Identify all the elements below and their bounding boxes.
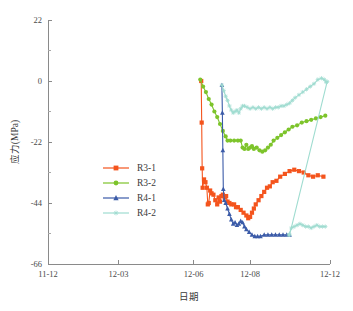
data-point-star bbox=[225, 98, 229, 102]
data-point-square bbox=[256, 198, 260, 202]
legend-entry-R4-1[interactable]: R4-1 bbox=[103, 193, 156, 203]
data-point-star bbox=[308, 84, 312, 88]
data-point-square bbox=[224, 194, 228, 198]
data-point-circle bbox=[279, 133, 283, 137]
data-point-square bbox=[200, 166, 204, 170]
data-point-square bbox=[211, 193, 215, 197]
x-tick-label: 12-08 bbox=[240, 269, 260, 279]
data-point-star bbox=[227, 104, 231, 108]
data-point-circle bbox=[207, 97, 211, 101]
y-tick-label: -66 bbox=[31, 259, 42, 269]
data-point-square bbox=[287, 169, 291, 173]
data-point-star bbox=[114, 211, 119, 216]
legend-entry-R3-2[interactable]: R3-2 bbox=[103, 178, 156, 188]
data-point-square bbox=[278, 175, 282, 179]
y-tick-label: -44 bbox=[31, 198, 43, 208]
data-point-star bbox=[312, 82, 316, 86]
data-point-circle bbox=[309, 118, 313, 122]
data-point-square bbox=[316, 173, 320, 177]
data-point-square bbox=[218, 200, 222, 204]
data-point-circle bbox=[290, 125, 294, 129]
series-line-R4-2 bbox=[222, 78, 327, 235]
data-point-circle bbox=[242, 147, 246, 151]
data-point-circle bbox=[300, 120, 304, 124]
data-point-circle bbox=[295, 123, 299, 127]
x-tick-label: 12-12 bbox=[320, 269, 340, 279]
data-point-square bbox=[248, 215, 252, 219]
x-tick-label: 11-12 bbox=[38, 269, 58, 279]
data-point-circle bbox=[209, 102, 213, 106]
data-point-star bbox=[222, 89, 226, 93]
data-point-circle bbox=[228, 139, 232, 143]
data-point-square bbox=[114, 166, 119, 171]
data-point-circle bbox=[239, 139, 243, 143]
chart-canvas: 220-22-44-6611-1212-0312-0612-0812-12 R3… bbox=[0, 0, 353, 311]
data-point-circle bbox=[287, 127, 291, 131]
data-point-triangle bbox=[225, 206, 230, 210]
data-point-square bbox=[311, 175, 315, 179]
data-point-circle bbox=[224, 134, 228, 138]
data-point-circle bbox=[198, 78, 202, 82]
data-point-square bbox=[297, 169, 301, 173]
data-point-square bbox=[200, 120, 204, 124]
data-point-square bbox=[254, 202, 258, 206]
series-R4-2 bbox=[220, 76, 329, 237]
data-point-square bbox=[274, 179, 278, 183]
data-point-circle bbox=[212, 109, 216, 113]
data-point-square bbox=[203, 180, 207, 184]
data-point-square bbox=[259, 194, 263, 198]
data-point-triangle bbox=[221, 187, 226, 191]
data-point-circle bbox=[201, 84, 205, 88]
data-point-circle bbox=[272, 139, 276, 143]
data-point-circle bbox=[114, 181, 119, 186]
data-point-star bbox=[287, 233, 291, 237]
data-point-triangle bbox=[221, 148, 226, 152]
data-point-triangle bbox=[227, 212, 232, 216]
legend-entry-R4-2[interactable]: R4-2 bbox=[103, 208, 156, 218]
data-point-triangle bbox=[220, 110, 225, 114]
legend-label: R3-1 bbox=[137, 163, 156, 173]
y-axis-title: 应力(MPa) bbox=[9, 120, 21, 164]
legend-entry-R3-1[interactable]: R3-1 bbox=[103, 163, 156, 173]
data-point-circle bbox=[215, 115, 219, 119]
x-axis-title: 日期 bbox=[179, 292, 199, 302]
data-point-circle bbox=[204, 90, 208, 94]
data-point-square bbox=[268, 184, 272, 188]
x-tick-label: 12-06 bbox=[184, 269, 204, 279]
data-point-star bbox=[323, 224, 327, 228]
data-point-square bbox=[252, 206, 256, 210]
data-point-square bbox=[292, 168, 296, 172]
legend-label: R3-2 bbox=[137, 178, 156, 188]
data-point-circle bbox=[323, 114, 327, 118]
data-point-circle bbox=[244, 143, 248, 147]
data-point-circle bbox=[275, 136, 279, 140]
data-point-star bbox=[304, 87, 308, 91]
data-point-square bbox=[250, 211, 254, 215]
y-tick-label: 22 bbox=[34, 15, 43, 25]
data-point-star bbox=[229, 108, 233, 112]
data-point-square bbox=[306, 173, 310, 177]
data-point-circle bbox=[218, 122, 222, 126]
data-point-circle bbox=[283, 130, 287, 134]
legend-label: R4-1 bbox=[137, 193, 156, 203]
stress-vs-date-chart: 220-22-44-6611-1212-0312-0612-0812-12 R3… bbox=[0, 0, 353, 311]
data-point-circle bbox=[232, 139, 236, 143]
data-point-circle bbox=[304, 119, 308, 123]
data-point-square bbox=[271, 180, 275, 184]
data-point-square bbox=[207, 201, 211, 205]
data-series bbox=[198, 76, 329, 238]
data-point-star bbox=[239, 107, 243, 111]
data-point-star bbox=[224, 94, 228, 98]
data-point-triangle bbox=[229, 217, 234, 221]
data-point-square bbox=[201, 186, 205, 190]
x-tick-label: 12-03 bbox=[109, 269, 129, 279]
y-tick-label: -22 bbox=[31, 137, 42, 147]
legend-label: R4-2 bbox=[137, 208, 156, 218]
axes: 220-22-44-6611-1212-0312-0612-0812-12 bbox=[31, 15, 340, 279]
data-point-square bbox=[283, 172, 287, 176]
chart-legend[interactable]: R3-1R3-2R4-1R4-2 bbox=[103, 163, 156, 218]
y-tick-label: 0 bbox=[38, 76, 42, 86]
data-point-circle bbox=[269, 143, 273, 147]
data-point-square bbox=[262, 190, 266, 194]
data-point-square bbox=[321, 175, 325, 179]
